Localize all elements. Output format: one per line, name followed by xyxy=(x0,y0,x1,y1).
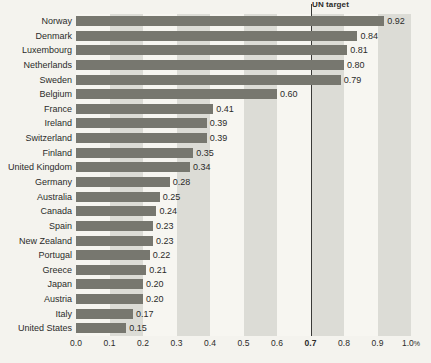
bar-row: Ireland0.39 xyxy=(0,116,431,130)
value-label-netherlands: 0.80 xyxy=(347,58,365,72)
bar-row: Japan0.20 xyxy=(0,277,431,291)
x-tick-0-6: 0.6 xyxy=(271,336,283,350)
value-label-sweden: 0.79 xyxy=(344,73,362,87)
bar-row: Germany0.28 xyxy=(0,175,431,189)
bar-belgium xyxy=(76,89,277,99)
bar-finland xyxy=(76,148,193,158)
category-label-portugal: Portugal xyxy=(0,248,72,262)
bar-row: Sweden0.79 xyxy=(0,73,431,87)
bar-row: Austria0.20 xyxy=(0,292,431,306)
x-tick-0-0: 0.0 xyxy=(70,336,82,350)
value-label-greece: 0.21 xyxy=(149,263,167,277)
value-label-australia: 0.25 xyxy=(163,190,181,204)
category-label-luxembourg: Luxembourg xyxy=(0,43,72,57)
bar-australia xyxy=(76,192,160,202)
bar-luxembourg xyxy=(76,45,347,55)
x-tick-1-0: 1.0% xyxy=(402,336,420,351)
bar-germany xyxy=(76,177,170,187)
bar-row: Finland0.35 xyxy=(0,146,431,160)
bar-switzerland xyxy=(76,133,207,143)
bar-canada xyxy=(76,206,156,216)
value-label-new-zealand: 0.23 xyxy=(156,234,174,248)
category-label-france: France xyxy=(0,102,72,116)
bar-ireland xyxy=(76,118,207,128)
bar-row: United Kingdom0.34 xyxy=(0,160,431,174)
category-label-canada: Canada xyxy=(0,204,72,218)
category-label-sweden: Sweden xyxy=(0,73,72,87)
value-label-japan: 0.20 xyxy=(146,277,164,291)
value-label-germany: 0.28 xyxy=(173,175,191,189)
value-label-united-states: 0.15 xyxy=(129,321,147,335)
value-label-belgium: 0.60 xyxy=(280,87,298,101)
bar-chart: UN target Norway0.92Denmark0.84Luxembour… xyxy=(0,0,431,363)
value-label-austria: 0.20 xyxy=(146,292,164,306)
x-tick-0-1: 0.1 xyxy=(104,336,116,350)
category-label-belgium: Belgium xyxy=(0,87,72,101)
bar-row: Luxembourg0.81 xyxy=(0,43,431,57)
bar-row: Spain0.23 xyxy=(0,219,431,233)
value-label-luxembourg: 0.81 xyxy=(350,43,368,57)
value-label-finland: 0.35 xyxy=(196,146,214,160)
bar-netherlands xyxy=(76,60,344,70)
category-label-greece: Greece xyxy=(0,263,72,277)
bar-france xyxy=(76,104,213,114)
category-label-italy: Italy xyxy=(0,307,72,321)
x-tick-0-5: 0.5 xyxy=(238,336,250,350)
category-label-ireland: Ireland xyxy=(0,116,72,130)
bar-greece xyxy=(76,265,146,275)
x-tick-0-9: 0.9 xyxy=(372,336,384,350)
value-label-norway: 0.92 xyxy=(387,14,405,28)
bar-row: Netherlands0.80 xyxy=(0,58,431,72)
category-label-united-states: United States xyxy=(0,321,72,335)
bar-row: Australia0.25 xyxy=(0,190,431,204)
category-label-netherlands: Netherlands xyxy=(0,58,72,72)
value-label-spain: 0.23 xyxy=(156,219,174,233)
category-label-austria: Austria xyxy=(0,292,72,306)
bar-united-states xyxy=(76,323,126,333)
category-label-germany: Germany xyxy=(0,175,72,189)
x-tick-0-7: 0.7 xyxy=(305,336,317,350)
value-label-denmark: 0.84 xyxy=(360,29,378,43)
category-label-finland: Finland xyxy=(0,146,72,160)
bar-row: Canada0.24 xyxy=(0,204,431,218)
value-label-france: 0.41 xyxy=(216,102,234,116)
value-label-switzerland: 0.39 xyxy=(210,131,228,145)
category-label-australia: Australia xyxy=(0,190,72,204)
bar-row: Denmark0.84 xyxy=(0,29,431,43)
bar-row: Belgium0.60 xyxy=(0,87,431,101)
x-axis: 0.00.10.20.30.40.50.60.70.80.91.0% xyxy=(0,336,431,356)
value-label-ireland: 0.39 xyxy=(210,116,228,130)
value-label-canada: 0.24 xyxy=(159,204,177,218)
category-label-denmark: Denmark xyxy=(0,29,72,43)
x-tick-0-8: 0.8 xyxy=(338,336,350,350)
category-label-spain: Spain xyxy=(0,219,72,233)
category-label-new-zealand: New Zealand xyxy=(0,234,72,248)
bar-norway xyxy=(76,16,384,26)
bar-united-kingdom xyxy=(76,162,190,172)
bar-row: United States0.15 xyxy=(0,321,431,335)
bar-row: Norway0.92 xyxy=(0,14,431,28)
x-tick-0-4: 0.4 xyxy=(204,336,216,350)
x-tick-0-3: 0.3 xyxy=(171,336,183,350)
value-label-italy: 0.17 xyxy=(136,307,154,321)
un-target-label: UN target xyxy=(312,0,349,9)
bar-denmark xyxy=(76,31,357,41)
bar-portugal xyxy=(76,250,150,260)
bar-sweden xyxy=(76,75,341,85)
category-label-japan: Japan xyxy=(0,277,72,291)
value-label-portugal: 0.22 xyxy=(153,248,171,262)
bar-austria xyxy=(76,294,143,304)
category-label-united-kingdom: United Kingdom xyxy=(0,160,72,174)
value-label-united-kingdom: 0.34 xyxy=(193,160,211,174)
bar-row: Switzerland0.39 xyxy=(0,131,431,145)
bar-row: Greece0.21 xyxy=(0,263,431,277)
bar-row: New Zealand0.23 xyxy=(0,234,431,248)
bar-japan xyxy=(76,279,143,289)
x-tick-0-2: 0.2 xyxy=(137,336,149,350)
bar-italy xyxy=(76,309,133,319)
bar-row: Portugal0.22 xyxy=(0,248,431,262)
category-label-switzerland: Switzerland xyxy=(0,131,72,145)
bar-new-zealand xyxy=(76,236,153,246)
category-label-norway: Norway xyxy=(0,14,72,28)
bar-row: Italy0.17 xyxy=(0,307,431,321)
